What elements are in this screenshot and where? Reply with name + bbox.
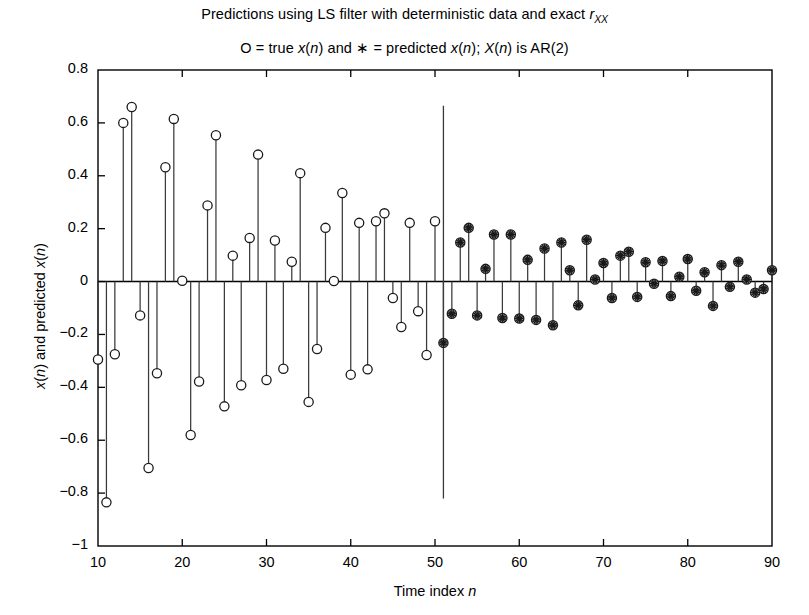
ylabel-x2: x [32,261,48,268]
series-true [93,102,776,507]
true-value-marker [363,365,372,374]
chart-title: Predictions using LS filter with determi… [0,6,809,25]
subtitle-star-glyph: ∗ [356,40,369,56]
true-value-marker [405,218,414,227]
true-value-marker [220,402,229,411]
true-value-marker [178,276,187,285]
true-value-marker [161,163,170,172]
x-tick-label: 90 [752,554,792,570]
true-value-marker [321,223,330,232]
chart-subtitle: O = true x(n) and ∗ = predicted x(n); X(… [0,40,809,56]
true-value-marker [287,257,296,266]
subtitle-seg-d: = predicted [369,40,451,56]
true-value-marker [144,463,153,472]
true-value-marker [169,114,178,123]
true-value-marker [237,381,246,390]
y-tick-label: 0.4 [28,166,88,182]
ylabel-seg-e: ( [32,256,48,261]
true-value-marker [388,293,397,302]
x-axis-label: Time index n [98,583,772,599]
true-value-marker [397,322,406,331]
true-value-marker [102,498,111,507]
true-value-marker [279,364,288,373]
x-tick-label: 80 [668,554,708,570]
true-value-marker [203,201,212,210]
x-tick-label: 20 [162,554,202,570]
true-value-marker [338,188,347,197]
chart-title-text: Predictions using LS filter with determi… [201,6,589,22]
xlabel-n: n [468,583,476,599]
x-tick-label: 70 [584,554,624,570]
true-value-marker [262,375,271,384]
stem-plot-canvas [0,0,809,615]
true-value-marker [152,369,161,378]
chart-title-subscript: XX [594,14,608,25]
x-tick-label: 10 [78,554,118,570]
true-value-marker [304,397,313,406]
figure-container: Predictions using LS filter with determi… [0,0,809,615]
y-tick-label: −0.8 [28,483,88,499]
true-value-marker [110,350,119,359]
y-tick-label: 0 [28,272,88,288]
subtitle-seg-h: ) is AR(2) [507,40,568,56]
y-tick-label: −0.6 [28,430,88,446]
x-tick-label: 60 [499,554,539,570]
ylabel-seg-f: ) [32,243,48,248]
true-value-marker [253,150,262,159]
true-value-marker [329,276,338,285]
true-value-marker [211,131,220,140]
true-value-marker [312,344,321,353]
true-value-marker [346,370,355,379]
subtitle-n2: n [463,40,471,56]
y-tick-label: −1 [28,536,88,552]
true-value-marker [422,350,431,359]
subtitle-seg-f: ); [471,40,484,56]
true-value-marker [355,218,364,227]
ylabel-n1: n [32,369,48,377]
true-value-marker [414,307,423,316]
y-tick-label: −0.4 [28,377,88,393]
true-value-marker [119,118,128,127]
true-value-marker [296,169,305,178]
x-tick-label: 30 [247,554,287,570]
subtitle-X: X [484,40,494,56]
true-value-marker [136,311,145,320]
true-value-marker [195,377,204,386]
y-tick-label: 0.2 [28,219,88,235]
ylabel-n2: n [32,248,48,256]
true-value-marker [228,251,237,260]
subtitle-seg-c: ) and [318,40,356,56]
true-value-marker [127,102,136,111]
y-tick-label: 0.6 [28,113,88,129]
true-value-marker [380,209,389,218]
true-value-marker [371,217,380,226]
true-value-marker [93,355,102,364]
xlabel-text: Time index [394,583,468,599]
x-tick-label: 40 [331,554,371,570]
x-tick-label: 50 [415,554,455,570]
true-value-marker [186,430,195,439]
true-value-marker [270,236,279,245]
true-value-marker [430,217,439,226]
y-tick-label: −0.2 [28,324,88,340]
subtitle-seg-a: O = true [240,40,298,56]
y-tick-label: 0.8 [28,60,88,76]
true-value-marker [245,233,254,242]
